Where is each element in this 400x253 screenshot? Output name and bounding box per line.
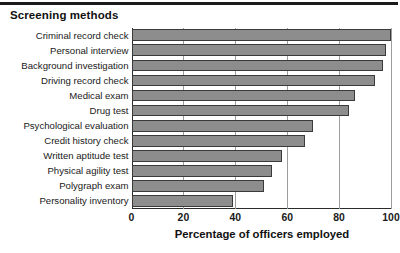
bar bbox=[132, 180, 264, 192]
bar bbox=[132, 195, 233, 207]
category-label: Personality inventory bbox=[3, 195, 129, 206]
category-label: Psychological evaluation bbox=[3, 120, 129, 131]
bar-row bbox=[132, 119, 392, 134]
x-axis-title: Percentage of officers employed bbox=[0, 228, 398, 240]
x-tick-label-100: 100 bbox=[382, 212, 399, 223]
x-tick-label-40: 40 bbox=[230, 212, 242, 223]
bar-row bbox=[132, 103, 392, 118]
bar bbox=[132, 44, 386, 56]
bar bbox=[132, 75, 376, 87]
category-label: Drug test bbox=[3, 105, 129, 116]
page-title: Screening methods bbox=[10, 9, 118, 21]
category-label: Physical agility test bbox=[3, 165, 129, 176]
bar-rows bbox=[132, 28, 392, 209]
bar-row bbox=[132, 88, 392, 103]
bar bbox=[132, 105, 350, 117]
bar-row bbox=[132, 58, 392, 73]
bar bbox=[132, 60, 384, 72]
bar-row bbox=[132, 73, 392, 88]
x-tick-label-20: 20 bbox=[178, 212, 190, 223]
bar bbox=[132, 150, 283, 162]
bar bbox=[132, 135, 306, 147]
category-label: Medical exam bbox=[3, 90, 129, 101]
x-axis-title-text: Percentage of officers employed bbox=[175, 228, 350, 240]
category-label: Credit history check bbox=[3, 135, 129, 146]
plot-area bbox=[132, 28, 392, 209]
top-rule bbox=[0, 2, 398, 5]
gridline-100 bbox=[391, 28, 392, 209]
bar bbox=[132, 29, 392, 41]
category-label: Personal interview bbox=[3, 45, 129, 56]
x-tick-label-60: 60 bbox=[281, 212, 293, 223]
category-label: Background investigation bbox=[3, 60, 129, 71]
bar bbox=[132, 165, 272, 177]
bar-row bbox=[132, 179, 392, 194]
bar-row bbox=[132, 28, 392, 43]
category-label: Driving record check bbox=[3, 75, 129, 86]
x-tick-label-80: 80 bbox=[333, 212, 345, 223]
bar-row bbox=[132, 164, 392, 179]
category-label: Polygraph exam bbox=[3, 180, 129, 191]
bar-row bbox=[132, 43, 392, 58]
category-label: Written aptitude test bbox=[3, 150, 129, 161]
x-tick-label-0: 0 bbox=[129, 212, 135, 223]
category-label: Criminal record check bbox=[3, 30, 129, 41]
bar bbox=[132, 90, 355, 102]
bar-row bbox=[132, 149, 392, 164]
bar-row bbox=[132, 194, 392, 209]
bar bbox=[132, 120, 314, 132]
bar-row bbox=[132, 134, 392, 149]
